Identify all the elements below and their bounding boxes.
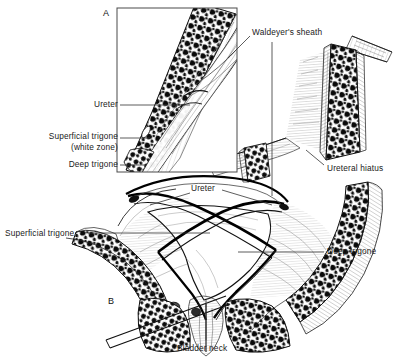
panel-mark-b: B (108, 296, 114, 306)
label-superficial-trigone-panel-b: Superficial trigone (5, 228, 74, 238)
lower-right-muscle-block (225, 299, 290, 352)
label-superficial-trigone-panel-a: Superficial trigone (0, 131, 122, 141)
right-wall-fan-hatch (286, 52, 324, 150)
anatomical-figure: Ureter Superficial trigone (white zone) … (0, 0, 401, 363)
illustration-artwork (0, 0, 401, 363)
panel-mark-a: A (103, 8, 109, 18)
label-white-zone: (white zone) (0, 142, 122, 152)
label-waldeyers-sheath: Waldeyer's sheath (252, 27, 322, 37)
left-wall-flap (239, 143, 270, 182)
label-ureteral-hiatus: Ureteral hiatus (327, 163, 383, 173)
label-ureter-panel-b: Ureter (191, 183, 215, 193)
label-bladder-neck: Bladder neck (177, 343, 227, 353)
label-ureter-panel-a: Ureter (0, 99, 122, 109)
right-bladder-wall-upper (320, 44, 366, 160)
label-deep-trigone-panel-a: Deep trigone (0, 159, 122, 169)
label-deep-trigone-panel-b: Deep trigone (327, 246, 376, 256)
